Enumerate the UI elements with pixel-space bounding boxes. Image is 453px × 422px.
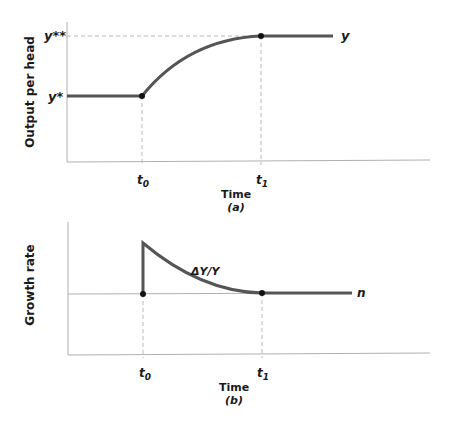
panel-b-t1-label: t1 bbox=[257, 366, 269, 382]
panel-b-growth-curve bbox=[143, 243, 352, 294]
panel-b-caption: (b) bbox=[225, 394, 243, 407]
panel-b: ΔY/Y n Growth rate t0 t1 Time (b) bbox=[23, 222, 430, 407]
panel-a-output-curve bbox=[67, 36, 333, 96]
panel-b-curve-label: ΔY/Y bbox=[190, 265, 220, 278]
panel-b-y-axis-label: Growth rate bbox=[23, 244, 37, 325]
panel-b-x-axis bbox=[68, 353, 430, 355]
panel-a-y-axis-label: Output per head bbox=[23, 36, 37, 148]
panel-a-point-t0 bbox=[139, 93, 145, 99]
panel-a-caption: (a) bbox=[227, 201, 244, 214]
panel-b-point-t1 bbox=[259, 290, 265, 296]
panel-a-t1-label: t1 bbox=[256, 173, 268, 189]
panel-a: y** y* y Output per head t0 t1 Time (a) bbox=[23, 22, 430, 214]
panel-a-x-axis bbox=[67, 160, 430, 162]
panel-a-yss-label: y** bbox=[44, 28, 66, 43]
panel-a-point-t1 bbox=[258, 33, 264, 39]
panel-a-x-axis-label: Time bbox=[221, 188, 251, 201]
panel-a-curve-label: y bbox=[341, 28, 350, 43]
panel-a-ys-label: y* bbox=[48, 89, 63, 104]
growth-diagram: y** y* y Output per head t0 t1 Time (a) … bbox=[0, 0, 453, 422]
panel-b-point-t0 bbox=[140, 291, 146, 297]
panel-b-baseline-label: n bbox=[357, 286, 366, 300]
panel-a-t0-label: t0 bbox=[137, 173, 149, 189]
panel-b-t0-label: t0 bbox=[139, 366, 151, 382]
panel-b-x-axis-label: Time bbox=[219, 381, 249, 394]
